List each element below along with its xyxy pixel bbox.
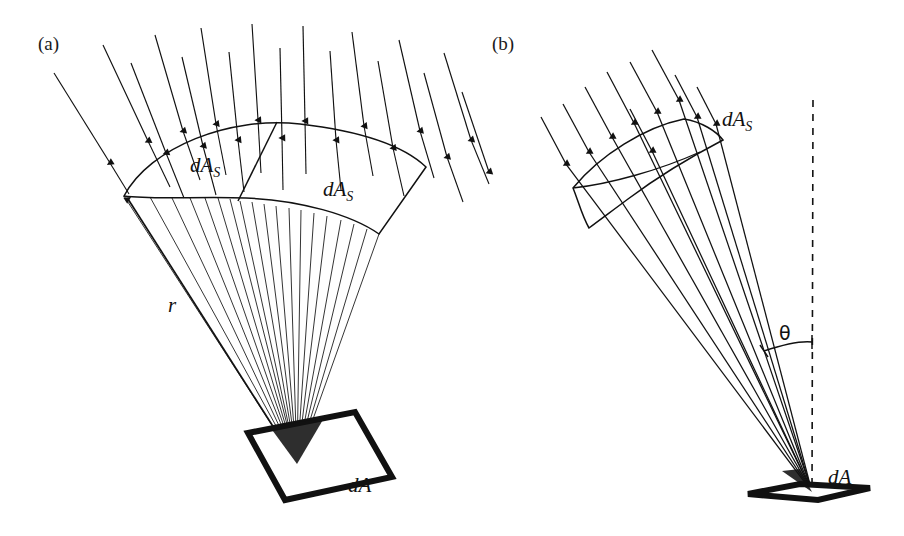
surface-band-a: [124, 123, 426, 234]
diagram-canvas: (a) dAS dAS r dA: [0, 0, 904, 536]
normal-dashed-line-b: [812, 100, 813, 494]
label-theta: θ: [779, 322, 791, 344]
label-dA-b: dA: [828, 465, 852, 489]
panel-a: (a) dAS dAS r dA: [38, 24, 489, 500]
label-radius-r: r: [168, 293, 177, 317]
label-dA-a: dA: [348, 473, 372, 497]
label-dA-S-b: dAS: [722, 107, 752, 134]
figure-root: (a) dAS dAS r dA: [0, 0, 904, 536]
panel-a-label: (a): [38, 33, 59, 55]
panel-b: (b) dAS θ dA: [492, 33, 870, 500]
radius-arrow-a: [128, 199, 297, 464]
theta-arc-tick-ray: [760, 345, 768, 357]
panel-b-label: (b): [492, 33, 514, 55]
surface-patch-b: [573, 119, 723, 228]
